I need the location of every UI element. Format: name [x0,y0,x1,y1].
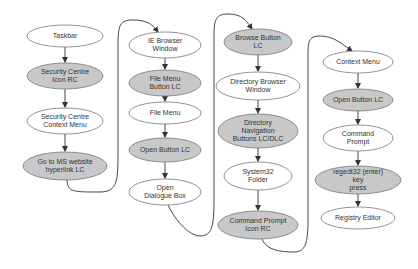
flow-node-n1 [27,25,103,47]
flow-node-n10 [224,29,292,55]
flow-node-n14 [218,211,298,239]
flow-node-n8 [129,138,201,162]
flow-node-n12 [218,114,298,148]
flow-node-n3 [27,108,103,134]
vertical-edges [65,47,358,210]
flow-node-n6 [129,70,201,96]
flow-node-n11 [216,72,300,100]
flow-node-n16 [323,89,393,111]
flow-node-n9 [129,179,201,205]
flow-node-n5 [129,32,201,58]
flow-node-n17 [323,125,393,151]
flow-node-n7 [129,102,201,124]
flow-node-n19 [321,207,395,229]
node-layer [23,25,401,239]
flow-node-n13 [224,162,292,190]
connector-layer [67,14,352,252]
flow-node-n15 [323,51,393,73]
diagram-canvas [0,0,418,269]
flow-node-n2 [27,63,103,89]
flow-node-n4 [23,152,107,180]
flow-node-n18 [315,166,401,194]
